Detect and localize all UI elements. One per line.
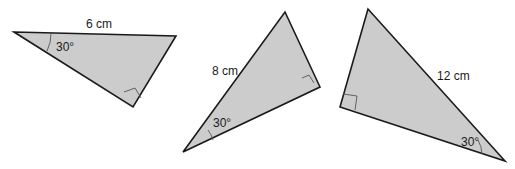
triangle-3-angle-label: 30° (461, 135, 479, 149)
triangle-1-side-label: 6 cm (86, 17, 112, 31)
triangle-1-angle-label: 30° (56, 40, 74, 54)
triangle-2-angle-label: 30° (213, 116, 231, 130)
triangle-3: 12 cm 30° (340, 9, 505, 161)
triangle-3-shape (340, 9, 505, 161)
triangle-1-shape (14, 32, 176, 107)
triangles-diagram: 6 cm 30° 8 cm 30° 12 cm 30° (0, 0, 515, 169)
triangle-3-side-label: 12 cm (437, 69, 470, 83)
triangle-2: 8 cm 30° (183, 12, 320, 152)
triangle-1: 6 cm 30° (14, 17, 176, 107)
triangle-2-side-label: 8 cm (212, 64, 238, 78)
triangle-2-shape (183, 12, 320, 152)
